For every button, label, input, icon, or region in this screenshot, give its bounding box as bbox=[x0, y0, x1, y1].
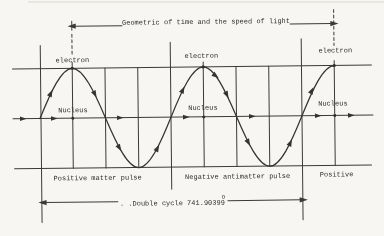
nucleus-dot bbox=[202, 115, 205, 118]
grid-line-trough1 bbox=[138, 68, 139, 168]
axis-arrow-icon bbox=[117, 115, 124, 120]
grid-line-crest3 bbox=[334, 61, 335, 166]
double-cycle-label: . .Double cycle 741.90399 bbox=[120, 199, 225, 208]
nucleus-label-right: Nucleus bbox=[318, 99, 347, 107]
grid-line-trough2 bbox=[269, 66, 270, 166]
diagram-group: Geometric of time and the speed of light… bbox=[12, 9, 374, 223]
nucleus-label-middle: Nucleus bbox=[188, 104, 217, 112]
axis-arrow-icon bbox=[51, 116, 58, 121]
nucleus-dot bbox=[333, 114, 336, 117]
bottom-dim-left-arrow-icon bbox=[38, 200, 46, 205]
wave-arrow-icon bbox=[47, 89, 55, 98]
axis-arrow-icon bbox=[249, 114, 256, 119]
axis-arrow-icon bbox=[348, 113, 355, 118]
dashed-reference-lines bbox=[72, 10, 334, 55]
text-labels: Geometric of time and the speed of light… bbox=[52, 16, 354, 208]
title-label: Geometric of time and the speed of light bbox=[122, 17, 290, 27]
diagram-svg: Geometric of time and the speed of light… bbox=[0, 0, 384, 236]
nucleus-label-left: Nucleus bbox=[58, 106, 87, 114]
left-boundary-line bbox=[40, 46, 42, 223]
negative-antimatter-pulse-label: Negative antimatter pulse bbox=[185, 172, 290, 181]
top-axis-line bbox=[12, 65, 371, 69]
top-dim-right-arrow-icon bbox=[330, 21, 338, 26]
wave-arrow-icon bbox=[91, 90, 99, 99]
bottom-dim-right-arrow-icon bbox=[300, 197, 308, 202]
electron-dot bbox=[333, 64, 336, 67]
electron-label-left: electron bbox=[56, 56, 90, 64]
axis-arrow-icon bbox=[315, 113, 322, 118]
nucleus-dot bbox=[71, 117, 74, 120]
electron-label-right: electron bbox=[318, 46, 352, 54]
wave-arrow-icon bbox=[115, 144, 123, 153]
degree-superscript: O bbox=[222, 194, 226, 201]
bottom-dim-left-segment bbox=[44, 202, 118, 203]
grid-line-crest1 bbox=[72, 62, 73, 168]
wave-arrow-icon bbox=[223, 91, 231, 100]
axis-arrow-icon bbox=[183, 115, 190, 120]
grid-line-crest2 bbox=[203, 62, 204, 167]
electron-label-middle: electron bbox=[185, 52, 219, 60]
wave-arrow-icon bbox=[244, 138, 252, 147]
wave-arrow-icon bbox=[287, 138, 295, 147]
electron-dot bbox=[71, 67, 74, 70]
bottom-dim-right-segment bbox=[228, 200, 302, 201]
positive-matter-pulse-label: Positive matter pulse bbox=[53, 174, 141, 183]
electron-dot bbox=[202, 65, 205, 68]
scanned-diagram-page: Geometric of time and the speed of light… bbox=[0, 0, 384, 236]
horizontal-axes bbox=[12, 65, 373, 169]
positive-right-label: Positive bbox=[320, 170, 354, 178]
wave-arrow-icon bbox=[154, 144, 162, 153]
bottom-axis-line bbox=[15, 165, 372, 169]
axis-arrow-icon bbox=[20, 116, 27, 121]
top-dim-left-segment bbox=[73, 26, 122, 27]
wave-arrow-icon bbox=[179, 85, 187, 94]
